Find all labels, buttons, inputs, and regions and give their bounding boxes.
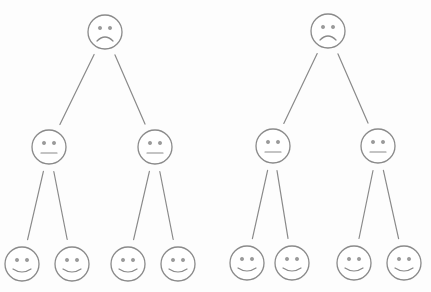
neutral-face-icon — [361, 129, 395, 163]
happy-face-icon — [161, 247, 195, 281]
neutral-face-icon — [32, 130, 66, 164]
neutral-face-icon — [256, 129, 290, 163]
eye — [285, 257, 288, 260]
happy-face-icon — [55, 247, 89, 281]
tree-diagram-canvas — [0, 0, 431, 292]
tree-edge — [338, 54, 368, 123]
happy-face-icon — [230, 246, 264, 280]
tree-edge — [54, 172, 67, 240]
eye — [357, 257, 360, 260]
eye — [121, 258, 124, 261]
tree-edge — [252, 170, 267, 238]
tree-edge — [28, 171, 44, 239]
eye — [75, 258, 78, 261]
happy-face-icon — [337, 246, 371, 280]
eye — [108, 26, 111, 29]
eye — [407, 257, 410, 260]
tree-edge — [284, 54, 317, 124]
eye — [52, 141, 55, 144]
eye — [331, 25, 334, 28]
eye — [148, 141, 151, 144]
eye — [397, 257, 400, 260]
happy-face-icon — [111, 247, 145, 281]
sad-face-icon — [311, 14, 345, 48]
eye — [266, 140, 269, 143]
tree-edge — [60, 55, 94, 125]
eye — [240, 257, 243, 260]
eye — [295, 257, 298, 260]
tree-edge — [115, 55, 145, 124]
eye — [131, 258, 134, 261]
eye — [25, 258, 28, 261]
eye — [15, 258, 18, 261]
eye — [250, 257, 253, 260]
happy-face-icon — [275, 246, 309, 280]
tree-edge — [160, 172, 173, 240]
eye — [371, 140, 374, 143]
happy-face-icon — [5, 247, 39, 281]
tree-diagram — [0, 0, 431, 292]
eye — [171, 258, 174, 261]
happy-face-icon — [387, 246, 421, 280]
tree-edge — [134, 171, 150, 239]
eye — [98, 26, 101, 29]
eye — [276, 140, 279, 143]
tree-edge — [383, 170, 398, 238]
sad-face-icon — [88, 15, 122, 49]
eye — [181, 258, 184, 261]
tree-edge — [359, 171, 373, 239]
eye — [321, 25, 324, 28]
tree-edge — [277, 171, 288, 239]
eye — [65, 258, 68, 261]
eye — [42, 141, 45, 144]
neutral-face-icon — [138, 130, 172, 164]
eye — [381, 140, 384, 143]
eye — [158, 141, 161, 144]
eye — [347, 257, 350, 260]
